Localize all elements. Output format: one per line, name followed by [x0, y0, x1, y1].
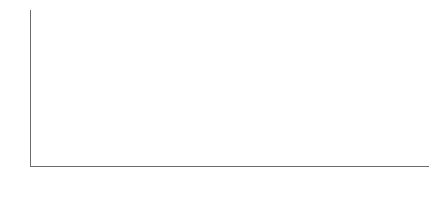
x-axis-labels: [30, 168, 428, 209]
waste-volume-stacked-bar-chart: [0, 0, 434, 209]
bar-series-container: [31, 10, 429, 166]
plot-area: [30, 10, 429, 167]
chart-legend: [296, 12, 300, 14]
